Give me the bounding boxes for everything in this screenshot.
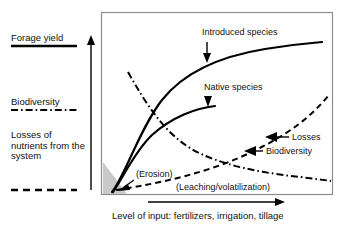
annotation-erosion: (Erosion)	[136, 169, 173, 180]
annotation-arrow-losses-head	[265, 132, 277, 142]
annotation-losses: Losses	[292, 132, 321, 143]
annotation-arrow-native-head	[204, 96, 212, 107]
legend-item-forage-yield: Forage yield	[11, 33, 63, 44]
legend-item-biodiversity: Biodiversity	[11, 97, 60, 108]
y-axis-arrowhead	[87, 35, 95, 45]
x-axis-title: Level of input: fertilizers, irrigation,…	[112, 211, 284, 222]
legend-item-losses: Losses of nutrients from the system	[11, 130, 85, 162]
x-axis-arrowhead	[275, 198, 285, 206]
annotation-native-species: Native species	[204, 82, 263, 93]
annotation-introduced-species: Introduced species	[202, 27, 278, 38]
annotation-biodiversity: Biodiversity	[266, 146, 312, 157]
annotation-arrow-introduced-head	[203, 53, 211, 63]
figure-root: Forage yield Biodiversity Losses of nutr…	[0, 0, 349, 231]
annotation-leaching: (Leaching/volatilization)	[176, 182, 270, 193]
